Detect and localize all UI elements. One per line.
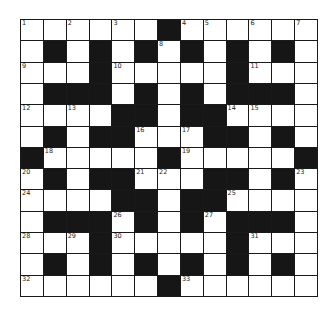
grid-cell[interactable] [158,212,180,232]
grid-cell[interactable] [204,276,226,296]
grid-cell[interactable]: 33 [181,276,203,296]
grid-cell[interactable] [272,190,294,210]
grid-cell[interactable]: 30 [112,233,134,253]
grid-cell[interactable] [67,169,89,189]
grid-cell[interactable] [67,148,89,168]
grid-cell[interactable] [67,276,89,296]
grid-cell[interactable] [44,233,66,253]
grid-cell[interactable] [249,254,271,274]
grid-cell[interactable]: 24 [21,190,43,210]
grid-cell[interactable]: 19 [181,148,203,168]
grid-cell[interactable] [181,63,203,83]
grid-cell[interactable] [90,105,112,125]
grid-cell[interactable] [44,20,66,40]
grid-cell[interactable] [158,127,180,147]
grid-cell[interactable] [21,41,43,61]
grid-cell[interactable] [181,169,203,189]
grid-cell[interactable] [272,148,294,168]
grid-cell[interactable] [67,127,89,147]
grid-cell[interactable] [204,254,226,274]
grid-cell[interactable] [135,63,157,83]
grid-cell[interactable] [249,169,271,189]
grid-cell[interactable] [135,233,157,253]
grid-cell[interactable] [295,41,317,61]
grid-cell[interactable]: 3 [112,20,134,40]
grid-cell[interactable] [249,41,271,61]
grid-cell[interactable] [272,105,294,125]
grid-cell[interactable]: 29 [67,233,89,253]
grid-cell[interactable]: 32 [21,276,43,296]
grid-cell[interactable]: 25 [227,190,249,210]
grid-cell[interactable] [112,41,134,61]
grid-cell[interactable]: 21 [135,169,157,189]
grid-cell[interactable] [21,84,43,104]
grid-cell[interactable] [158,84,180,104]
grid-cell[interactable]: 27 [204,212,226,232]
grid-cell[interactable] [158,105,180,125]
grid-cell[interactable] [135,20,157,40]
grid-cell[interactable]: 18 [44,148,66,168]
grid-cell[interactable] [227,148,249,168]
grid-cell[interactable] [21,127,43,147]
grid-cell[interactable] [272,63,294,83]
grid-cell[interactable] [204,233,226,253]
grid-cell[interactable] [181,233,203,253]
grid-cell[interactable] [295,190,317,210]
grid-cell[interactable]: 20 [21,169,43,189]
grid-cell[interactable]: 16 [135,127,157,147]
grid-cell[interactable] [112,148,134,168]
grid-cell[interactable]: 8 [158,41,180,61]
grid-cell[interactable] [295,105,317,125]
grid-cell[interactable]: 14 [227,105,249,125]
grid-cell[interactable] [90,190,112,210]
grid-cell[interactable]: 5 [204,20,226,40]
grid-cell[interactable]: 1 [21,20,43,40]
grid-cell[interactable] [272,20,294,40]
grid-cell[interactable] [204,148,226,168]
grid-cell[interactable]: 6 [249,20,271,40]
grid-cell[interactable] [295,276,317,296]
grid-cell[interactable] [249,190,271,210]
grid-cell[interactable]: 26 [112,212,134,232]
grid-cell[interactable] [44,105,66,125]
grid-cell[interactable] [21,254,43,274]
grid-cell[interactable]: 10 [112,63,134,83]
grid-cell[interactable] [112,276,134,296]
grid-cell[interactable]: 23 [295,169,317,189]
grid-cell[interactable] [204,63,226,83]
grid-cell[interactable] [112,254,134,274]
grid-cell[interactable]: 7 [295,20,317,40]
grid-cell[interactable] [204,84,226,104]
grid-cell[interactable] [44,190,66,210]
grid-cell[interactable] [249,127,271,147]
grid-cell[interactable] [67,41,89,61]
grid-cell[interactable] [158,190,180,210]
grid-cell[interactable]: 15 [249,105,271,125]
grid-cell[interactable] [295,84,317,104]
grid-cell[interactable] [158,254,180,274]
grid-cell[interactable] [90,276,112,296]
grid-cell[interactable] [67,190,89,210]
grid-cell[interactable]: 12 [21,105,43,125]
grid-cell[interactable] [295,254,317,274]
grid-cell[interactable]: 9 [21,63,43,83]
grid-cell[interactable] [295,212,317,232]
grid-cell[interactable]: 28 [21,233,43,253]
grid-cell[interactable] [272,233,294,253]
grid-cell[interactable]: 4 [181,20,203,40]
grid-cell[interactable]: 11 [249,63,271,83]
grid-cell[interactable] [67,254,89,274]
grid-cell[interactable] [67,63,89,83]
grid-cell[interactable] [90,148,112,168]
grid-cell[interactable] [158,233,180,253]
grid-cell[interactable]: 31 [249,233,271,253]
grid-cell[interactable]: 13 [67,105,89,125]
grid-cell[interactable] [249,148,271,168]
grid-cell[interactable] [227,20,249,40]
grid-cell[interactable] [295,127,317,147]
grid-cell[interactable] [227,276,249,296]
grid-cell[interactable] [295,63,317,83]
grid-cell[interactable] [112,84,134,104]
grid-cell[interactable] [44,63,66,83]
grid-cell[interactable] [204,41,226,61]
